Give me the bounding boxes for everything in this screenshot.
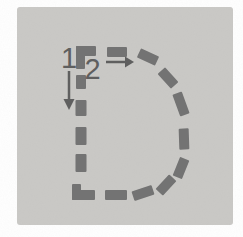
letter-dash	[105, 190, 127, 200]
letter-dash	[107, 47, 127, 57]
letter-dash	[76, 100, 87, 116]
stroke-2-number-label: 2	[84, 53, 100, 85]
letter-dash	[76, 154, 87, 172]
stroke-1-number-label: 1	[61, 42, 77, 74]
letter-dash	[72, 190, 95, 200]
letter-dash	[179, 128, 190, 149]
letter-dash	[76, 127, 87, 145]
letter-d-stroke-diagram: 1 2	[0, 0, 243, 237]
